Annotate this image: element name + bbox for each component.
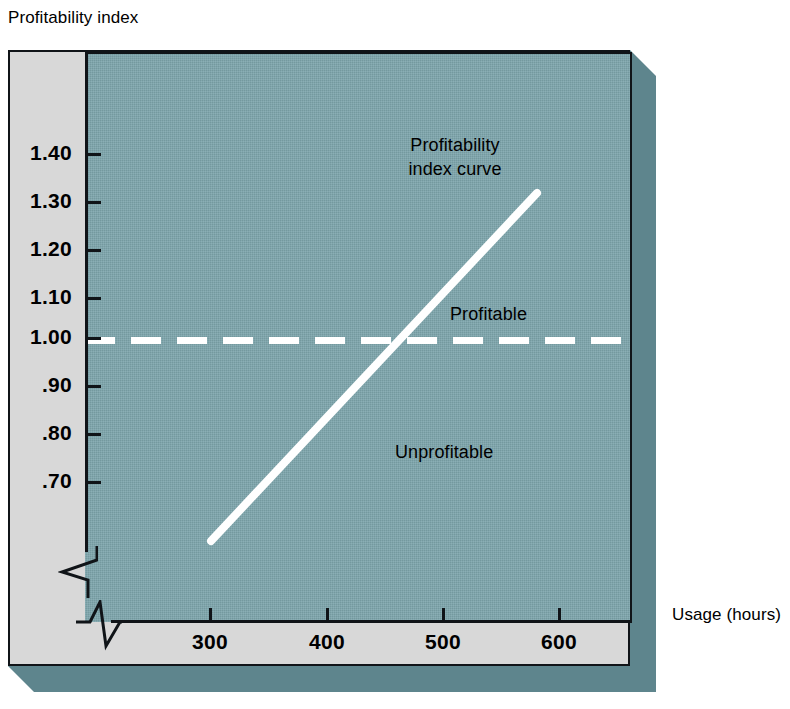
x-tick-mark: [558, 608, 561, 621]
x-axis-line: [111, 620, 632, 623]
y-tick-mark: [88, 297, 101, 300]
y-tick-label: 1.30: [30, 189, 72, 213]
curve-annotation-line2: index curve: [408, 159, 501, 179]
y-tick-label: 1.00: [30, 325, 72, 349]
curve-annotation-line1: Profitability: [410, 135, 499, 155]
x-tick-label: 400: [309, 630, 345, 654]
x-tick-label: 300: [192, 630, 228, 654]
figure-shadow-bottom-left-bevel: [8, 666, 34, 692]
y-tick-label: .80: [42, 421, 72, 445]
figure-shadow-right: [630, 76, 656, 692]
y-tick-mark: [88, 201, 101, 204]
y-tick-label: .90: [42, 373, 72, 397]
x-tick-mark: [209, 608, 212, 621]
y-tick-label: 1.20: [30, 237, 72, 261]
region-label-unprofitable: Unprofitable: [395, 442, 493, 463]
y-tick-label: .70: [42, 469, 72, 493]
figure-shadow-right-bevel: [630, 50, 656, 76]
y-tick-mark: [88, 433, 101, 436]
curve-annotation: Profitability index curve: [408, 134, 501, 182]
x-tick-mark: [326, 608, 329, 621]
breakeven-threshold-line: [85, 337, 632, 344]
y-tick-mark: [88, 153, 101, 156]
x-axis-break-symbol: [76, 600, 122, 660]
y-tick-label: 1.10: [30, 285, 72, 309]
x-tick-label: 600: [541, 630, 577, 654]
y-tick-mark: [88, 385, 101, 388]
y-axis-break-symbol: [58, 546, 98, 598]
y-axis-line: [85, 52, 88, 552]
chart-figure: Profitability index curve Profitable Unp…: [8, 50, 630, 666]
y-tick-mark: [88, 481, 101, 484]
x-tick-mark: [442, 608, 445, 621]
plot-area: Profitability index curve Profitable Unp…: [85, 52, 632, 622]
x-axis-title: Usage (hours): [672, 605, 781, 625]
y-axis-title: Profitability index: [8, 8, 138, 28]
y-tick-label: 1.40: [30, 141, 72, 165]
chart-frame: Profitability index curve Profitable Unp…: [8, 50, 630, 666]
y-tick-mark: [88, 337, 101, 340]
figure-shadow-bottom: [34, 666, 630, 692]
x-tick-label: 500: [425, 630, 461, 654]
y-tick-mark: [88, 249, 101, 252]
region-label-profitable: Profitable: [450, 304, 527, 325]
